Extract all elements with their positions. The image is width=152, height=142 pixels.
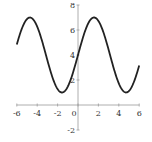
x-tick-label: 6 [137, 109, 142, 118]
x-tick-label: -4 [33, 109, 41, 118]
x-tick-label: 4 [116, 109, 121, 118]
y-tick-label: -2 [67, 126, 75, 135]
x-tick-label: 0 [71, 109, 76, 118]
y-tick-label: 8 [70, 1, 75, 10]
y-tick-label: 4 [70, 51, 75, 60]
ticks: -6-4-20246-22468 [13, 1, 142, 135]
x-tick-label: 2 [96, 109, 101, 118]
x-tick-label: -6 [13, 109, 21, 118]
chart: -6-4-20246-22468 [0, 0, 152, 142]
x-tick-label: -2 [54, 109, 62, 118]
y-tick-label: 6 [70, 26, 75, 35]
